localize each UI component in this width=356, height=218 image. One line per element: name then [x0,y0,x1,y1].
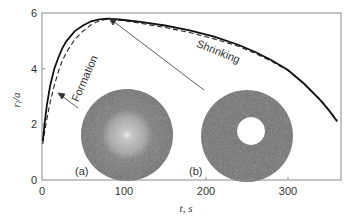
inset-a-label: (a) [75,165,88,177]
arrow-to-peak [109,18,204,90]
x-tick-100: 100 [115,185,133,197]
svg-text:rl/a: rl/a [10,92,24,108]
x-axis-label: t, s [180,202,193,214]
inset-b-label: (b) [189,165,202,177]
x-tick-300: 300 [279,185,297,197]
y-tick-4: 4 [31,63,37,75]
y-tick-6: 6 [31,7,37,19]
shrinking-label: Shrinking [195,37,242,65]
inset-b [201,90,293,182]
inset-a-disc [81,89,173,181]
y-tick-2: 2 [31,118,37,130]
x-tick-200: 200 [197,185,215,197]
x-tick-0: 0 [39,185,45,197]
inset-b-ring [201,90,293,182]
chart: 0 100 200 300 0 2 4 6 t, s rl/a Formatio… [0,0,356,218]
y-tick-0: 0 [31,174,37,186]
y-axis-label: rl/a [10,92,24,108]
formation-label: Formation [69,53,100,103]
inset-a [81,89,173,181]
